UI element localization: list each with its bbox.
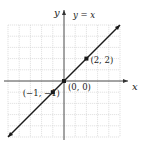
x-axis-arrow-icon xyxy=(123,79,128,83)
data-point xyxy=(84,57,88,61)
x-axis-label: x xyxy=(132,81,138,92)
data-point-label: (−1, −1) xyxy=(23,88,60,98)
axes xyxy=(4,10,128,140)
data-point-label: (0, 0) xyxy=(68,82,91,92)
y-axis-arrow-icon xyxy=(62,10,66,15)
data-point xyxy=(62,79,66,83)
series-label: y = x xyxy=(72,10,95,20)
y-axis-label: y xyxy=(53,7,60,18)
data-point-label: (2, 2) xyxy=(90,55,113,65)
graph-y-equals-x: (−1, −1)(0, 0)(2, 2) x y y = x xyxy=(0,0,143,147)
